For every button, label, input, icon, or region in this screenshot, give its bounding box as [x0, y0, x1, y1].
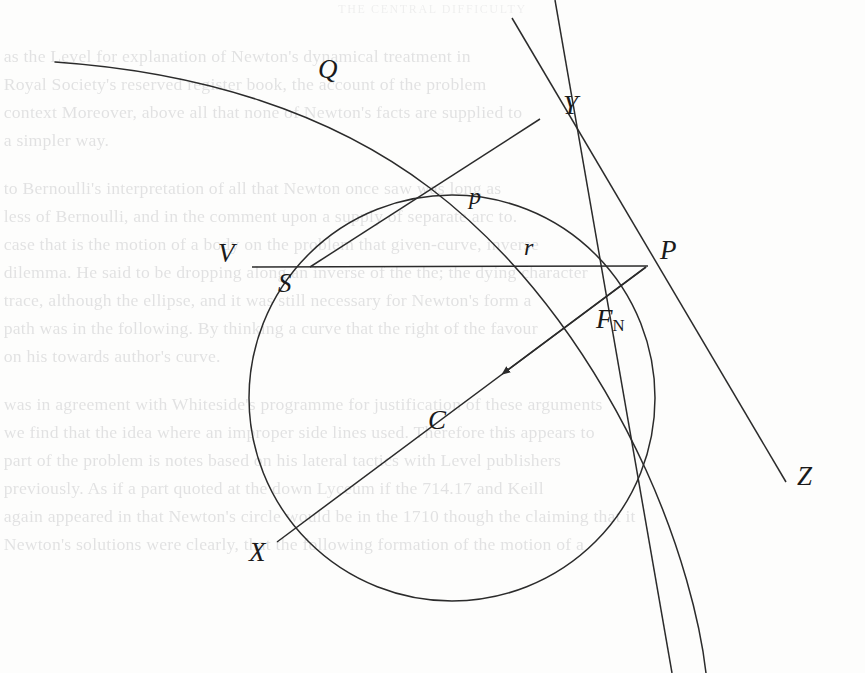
tangent-line-YZ: [512, 18, 786, 482]
label-P: P: [660, 237, 677, 264]
label-Q: Q: [318, 56, 338, 83]
geometry-diagram: [0, 0, 865, 673]
label-Z: Z: [797, 463, 812, 490]
scanned-page: THE CENTRAL DIFFICULTY as the Level for …: [0, 0, 865, 673]
label-FN-subscript: N: [613, 316, 625, 335]
orbit-circle: [249, 195, 655, 601]
segment-SY-perpendicular: [310, 119, 540, 267]
label-V: V: [218, 240, 235, 267]
label-Y: Y: [563, 92, 578, 119]
label-X: X: [249, 539, 266, 566]
label-r: r: [524, 235, 533, 259]
label-FN-base: F: [596, 304, 613, 334]
label-S: S: [278, 270, 292, 297]
label-FN: FN: [596, 306, 625, 335]
label-p: p: [469, 184, 481, 208]
force-vector-FN: [505, 267, 646, 372]
curve-Q: [55, 62, 706, 673]
label-C: C: [428, 407, 446, 434]
